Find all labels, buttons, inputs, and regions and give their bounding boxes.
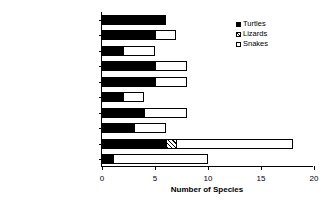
x-axis-tick-label: 0	[100, 174, 104, 183]
chart-legend: Turtles Lizards Snakes	[236, 19, 268, 49]
x-axis-tick	[102, 166, 103, 170]
x-axis-tick-label: 20	[310, 174, 319, 183]
x-axis-tick-label: 5	[153, 174, 157, 183]
x-axis-tick-label: 15	[257, 174, 266, 183]
x-axis-tick-label: 10	[204, 174, 213, 183]
x-axis: 05101520	[102, 12, 313, 166]
x-axis-tick	[208, 166, 209, 170]
x-axis-tick	[155, 166, 156, 170]
legend-item-lizards: Lizards	[236, 29, 268, 39]
plot-area: EstuaryStreamBogFenMarsh, pond/lake edge…	[101, 12, 313, 167]
legend-item-turtles: Turtles	[236, 19, 268, 29]
x-axis-tick	[314, 166, 315, 170]
x-axis-title: Number of Species	[101, 185, 313, 194]
legend-label-turtles: Turtles	[243, 19, 266, 29]
species-by-habitat-chart: EstuaryStreamBogFenMarsh, pond/lake edge…	[0, 0, 334, 203]
legend-swatch-snakes-icon	[236, 42, 241, 47]
x-axis-tick	[261, 166, 262, 170]
legend-item-snakes: Snakes	[236, 39, 268, 49]
legend-swatch-lizards-icon	[236, 32, 241, 37]
legend-swatch-turtles-icon	[236, 22, 241, 27]
legend-label-snakes: Snakes	[243, 39, 268, 49]
legend-label-lizards: Lizards	[243, 29, 267, 39]
